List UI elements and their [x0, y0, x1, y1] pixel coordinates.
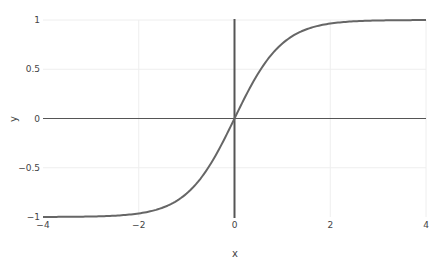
y-axis-title: y [8, 116, 19, 122]
x-axis-title: x [232, 248, 238, 259]
x-tick-label: 4 [423, 220, 429, 230]
y-tick-label: 0 [34, 114, 40, 124]
y-tick-label: 0.5 [26, 64, 40, 74]
chart: −4−2024 −1−0.500.51 x y [0, 0, 434, 273]
x-axis-ticks: −4−2024 [36, 220, 429, 230]
y-tick-label: −0.5 [18, 163, 40, 173]
y-axis-ticks: −1−0.500.51 [18, 15, 40, 222]
y-tick-label: 1 [34, 15, 40, 25]
y-tick-label: −1 [27, 212, 40, 222]
x-tick-label: 0 [232, 220, 238, 230]
x-tick-label: −2 [132, 220, 145, 230]
x-tick-label: 2 [327, 220, 333, 230]
